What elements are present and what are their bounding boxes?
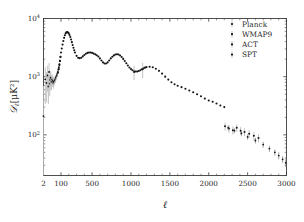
legend-marker: [231, 23, 233, 25]
data-point: [278, 155, 280, 157]
data-point: [200, 95, 202, 97]
x-tick-label: 1500: [161, 179, 180, 188]
data-point: [74, 51, 76, 53]
legend-marker: [231, 54, 233, 56]
data-point: [227, 127, 229, 129]
data-point: [68, 34, 70, 36]
data-point: [119, 54, 121, 56]
x-tick-label: 3000: [277, 179, 296, 188]
data-point: [204, 98, 206, 100]
data-point: [208, 99, 210, 101]
data-point: [72, 47, 74, 49]
data-point: [253, 135, 255, 137]
data-point: [236, 127, 238, 129]
x-tick-label: 1000: [122, 179, 141, 188]
data-point: [212, 101, 214, 103]
data-point: [268, 148, 270, 150]
data-point: [69, 36, 71, 38]
legend-marker: [231, 43, 233, 45]
legend-label: ACT: [241, 40, 258, 49]
legend-marker: [231, 33, 233, 35]
data-point: [161, 73, 163, 75]
x-axis-title: ℓ: [163, 199, 167, 210]
data-point: [133, 71, 135, 73]
data-point: [184, 88, 186, 90]
data-point: [188, 89, 190, 91]
data-point: [145, 66, 147, 68]
data-point: [57, 71, 59, 73]
data-point: [58, 64, 60, 66]
data-point: [75, 55, 77, 57]
data-point: [142, 68, 144, 70]
data-point: [72, 44, 74, 46]
data-point: [244, 131, 246, 133]
data-point: [61, 47, 63, 49]
legend-label: WMAP9: [242, 30, 272, 39]
data-point: [60, 51, 62, 53]
data-point: [128, 66, 130, 68]
data-point: [234, 130, 236, 132]
data-point: [48, 71, 50, 73]
data-point: [108, 59, 110, 61]
data-point: [170, 81, 172, 83]
x-tick-label: 500: [85, 179, 99, 188]
data-point: [167, 79, 169, 81]
data-point: [173, 83, 175, 85]
data-point: [63, 37, 65, 39]
data-point: [73, 49, 75, 51]
data-point: [152, 66, 154, 68]
data-point: [43, 115, 45, 117]
data-point: [155, 68, 157, 70]
data-point: [262, 144, 264, 146]
data-point: [110, 57, 112, 59]
data-point: [282, 158, 284, 160]
data-point: [248, 133, 250, 135]
data-point: [125, 62, 127, 64]
legend-label: Planck: [242, 20, 268, 29]
data-point: [158, 70, 160, 72]
x-tick-label: 2000: [200, 179, 219, 188]
data-point: [100, 59, 102, 61]
data-point: [164, 76, 166, 78]
data-point: [247, 136, 249, 138]
data-point: [215, 103, 217, 105]
x-tick-label: 2: [41, 179, 46, 188]
data-point: [121, 56, 123, 58]
data-point: [58, 68, 60, 70]
data-point: [149, 66, 151, 68]
data-point: [59, 56, 61, 58]
data-point: [127, 64, 129, 66]
data-point: [62, 40, 64, 42]
data-point: [180, 86, 182, 88]
cmb-power-spectrum-figure: 104103102 210050010001500200025003000 Pl…: [0, 0, 304, 222]
data-point: [47, 74, 49, 76]
data-point: [99, 57, 101, 59]
data-point: [59, 60, 61, 62]
x-tick-label: 100: [54, 179, 68, 188]
data-point: [240, 132, 242, 134]
data-point: [177, 85, 179, 87]
data-point: [224, 125, 226, 127]
data-point: [82, 55, 84, 57]
data-point: [219, 104, 221, 106]
x-tick-label: 2500: [238, 179, 257, 188]
data-point: [285, 162, 287, 164]
data-point: [58, 66, 60, 68]
data-point: [223, 106, 225, 108]
data-point: [122, 58, 124, 60]
data-point: [44, 78, 46, 80]
data-point: [107, 61, 109, 63]
data-point: [70, 38, 72, 40]
data-point: [64, 34, 66, 36]
data-point: [258, 137, 260, 139]
data-point: [196, 93, 198, 95]
plot-canvas: 104103102 210050010001500200025003000 Pl…: [0, 0, 304, 222]
data-point: [124, 60, 126, 62]
data-point: [254, 140, 256, 142]
data-point: [97, 55, 99, 57]
data-point: [62, 44, 64, 46]
legend-label: SPT: [242, 50, 257, 59]
data-point: [71, 41, 73, 43]
data-point: [192, 91, 194, 93]
data-point: [274, 151, 276, 153]
